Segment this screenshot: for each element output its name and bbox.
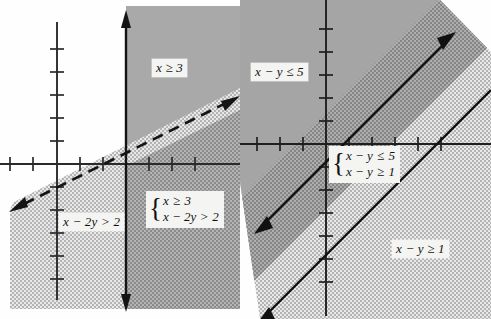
label-x-minus-2y-gt-2: x − 2y > 2 [59, 213, 124, 231]
label-x-minus-y-ge-1: x − y ≥ 1 [392, 240, 449, 258]
left-graph-panel: x ≥ 3 x − 2y > 2 { x ≥ 3 x − 2y > 2 [0, 0, 245, 319]
system-row-2: x − 2y > 2 [163, 209, 219, 225]
system-row-1: x ≥ 3 [163, 193, 219, 209]
label-x-minus-y-le-5: x − y ≤ 5 [251, 63, 308, 81]
figure-container: x ≥ 3 x − 2y > 2 { x ≥ 3 x − 2y > 2 [0, 0, 491, 319]
right-graph-panel: x − y ≤ 5 x − y ≥ 1 { x − y ≤ 5 x − y ≥ … [240, 0, 491, 319]
label-x-ge-3: x ≥ 3 [152, 59, 187, 77]
system-label-left: { x ≥ 3 x − 2y > 2 [146, 191, 224, 228]
brace-icon: { [332, 152, 345, 174]
system-label-right: { x − y ≤ 5 x − y ≥ 1 [329, 146, 400, 183]
left-graph-svg [0, 0, 245, 319]
system-row-2: x − y ≥ 1 [346, 164, 395, 180]
brace-icon: { [149, 197, 162, 219]
system-row-1: x − y ≤ 5 [346, 148, 395, 164]
